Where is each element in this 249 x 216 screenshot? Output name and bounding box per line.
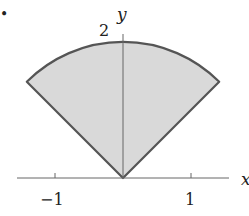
x-tick-label-1: 1	[185, 190, 195, 209]
marker-dot: •	[0, 6, 8, 22]
x-axis-label: x	[241, 169, 249, 189]
y-tick-label-2: 2	[99, 21, 109, 40]
x-tick-label-neg1: −1	[40, 190, 64, 209]
y-axis-label: y	[116, 4, 127, 24]
sector-diagram: • −1 1 2 y x	[0, 0, 249, 216]
